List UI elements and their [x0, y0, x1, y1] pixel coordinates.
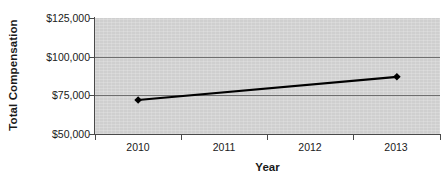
x-tick-label: 2012: [275, 141, 345, 153]
y-tick-label: $75,000: [28, 89, 90, 101]
y-axis-line: [94, 17, 95, 135]
x-tick-label: 2011: [189, 141, 259, 153]
x-tick-mark: [353, 135, 354, 140]
y-tick-label: $50,000: [28, 128, 90, 140]
series-total-compensation: [95, 18, 440, 134]
data-point-marker-2013: [393, 73, 401, 81]
x-tick-mark: [267, 135, 268, 140]
x-tick-label: 2013: [361, 141, 431, 153]
plot-area: [95, 18, 440, 134]
x-tick-mark: [95, 135, 96, 140]
series-line: [138, 77, 397, 100]
y-tick-label: $100,000: [28, 51, 90, 63]
x-tick-label: 2010: [103, 141, 173, 153]
y-tick-label: $125,000: [28, 12, 90, 24]
x-tick-mark: [181, 135, 182, 140]
y-axis-title-text: Total Compensation: [7, 19, 19, 130]
data-point-marker-2010: [134, 96, 142, 104]
x-tick-mark: [440, 135, 441, 140]
y-axis-title: Total Compensation: [0, 0, 26, 150]
x-axis-title: Year: [95, 161, 440, 173]
line-chart: Total Compensation $125,000 $100,000 $75…: [0, 0, 447, 189]
y-axis-tick-labels: $125,000 $100,000 $75,000 $50,000: [26, 0, 90, 189]
